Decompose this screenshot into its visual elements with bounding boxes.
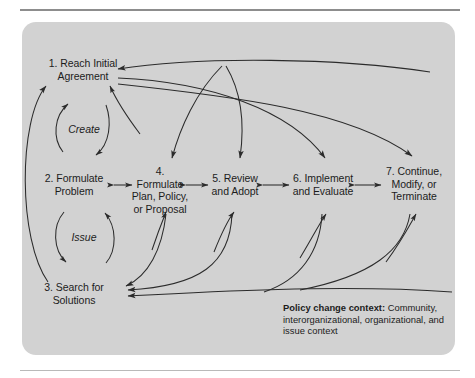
arc-node4-to-node3 (126, 214, 166, 286)
node-5-line-1: 5. Review (204, 172, 266, 185)
arc-return-to-node1 (118, 60, 430, 72)
node-formulate-problem[interactable]: 2. Formulate Problem (33, 172, 115, 197)
node-3-line-2: Solutions (33, 294, 115, 307)
node-4-line-1: 4. Formulate (131, 165, 189, 190)
arc-node1-to-node6 (118, 78, 325, 158)
node-4-line-2: Plan, Policy, (131, 190, 189, 203)
node-7-line-3: Terminate (382, 190, 446, 203)
node-7-line-1: 7. Continue, (382, 165, 446, 178)
arc-bottom-return-to-node3 (128, 289, 452, 296)
node-reach-initial-agreement[interactable]: 1. Reach Initial Agreement (33, 57, 133, 82)
node-implement-and-evaluate[interactable]: 6. Implement and Evaluate (288, 172, 358, 197)
policy-change-diagram: 1. Reach Initial Agreement 2. Formulate … (0, 0, 475, 378)
arc-top-to-node4 (172, 66, 222, 158)
node-6-line-2: and Evaluate (288, 185, 358, 198)
node-1-line-1: 1. Reach Initial (33, 57, 133, 70)
node-1-line-2: Agreement (33, 70, 133, 83)
policy-change-context-caption: Policy change context: Community, intero… (283, 302, 455, 337)
arc-node5-to-node3 (128, 214, 232, 290)
node-2-line-2: Problem (33, 185, 115, 198)
node-5-line-2: and Adopt (204, 185, 266, 198)
loop-label-create: Create (51, 123, 117, 135)
node-search-for-solutions[interactable]: 3. Search for Solutions (33, 281, 115, 306)
arc-top-to-node5 (226, 66, 242, 158)
arc-node1-to-node7 (118, 84, 412, 156)
loop-label-issue: Issue (51, 231, 117, 243)
node-6-line-1: 6. Implement (288, 172, 358, 185)
arc-up-into-node5 (214, 212, 234, 252)
arc-node6-down (264, 214, 322, 292)
node-7-line-2: Modify, or (382, 178, 446, 191)
node-4-line-3: or Proposal (131, 203, 189, 216)
node-review-and-adopt[interactable]: 5. Review and Adopt (204, 172, 266, 197)
node-continue-modify-terminate[interactable]: 7. Continue, Modify, or Terminate (382, 165, 446, 203)
caption-bold-label: Policy change context: (283, 302, 385, 313)
node-3-line-1: 3. Search for (33, 281, 115, 294)
node-2-line-1: 2. Formulate (33, 172, 115, 185)
node-formulate-plan-policy-proposal[interactable]: 4. Formulate Plan, Policy, or Proposal (131, 165, 189, 215)
